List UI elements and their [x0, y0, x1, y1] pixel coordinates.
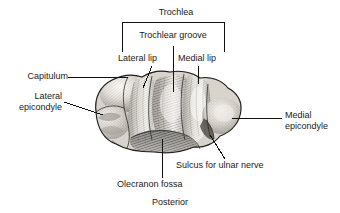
label-medial-epicondyle-line1: Medial [285, 110, 312, 121]
label-olecranon-fossa: Olecranon fossa [117, 179, 183, 190]
label-posterior: Posterior [140, 197, 200, 208]
label-medial-epicondyle-line2: epicondyle [285, 121, 328, 132]
label-lateral-epicondyle-line1: Lateral [4, 91, 62, 102]
bone-body-shading [90, 66, 250, 162]
label-sulcus-for-ulnar-nerve: Sulcus for ulnar nerve [176, 160, 264, 171]
label-lateral-lip: Lateral lip [118, 53, 157, 64]
label-trochlea: Trochlea [146, 7, 206, 18]
label-trochlear-groove: Trochlear groove [131, 30, 215, 41]
anatomical-figure-distal-humerus: Trochlea Trochlear groove Lateral lip Me… [0, 0, 340, 213]
label-lateral-epicondyle-line2: epicondyle [4, 102, 62, 113]
label-capitulum: Capitulum [8, 71, 68, 82]
label-medial-lip: Medial lip [178, 53, 216, 64]
